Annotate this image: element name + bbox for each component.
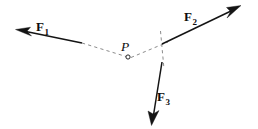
point-p-label: P xyxy=(121,40,129,54)
vector-f1-label-base: F xyxy=(36,19,44,34)
vector-f2-label-base: F xyxy=(184,9,192,24)
vector-f1-shaft xyxy=(26,32,82,44)
vector-f3-label: F3 xyxy=(157,90,170,107)
vector-f3-label-sub: 3 xyxy=(165,97,170,107)
vector-f3-label-base: F xyxy=(157,89,165,104)
vector-f1-label-sub: 1 xyxy=(44,27,49,37)
dashed-line-of-action-f1 xyxy=(82,43,126,57)
point-p-marker xyxy=(126,55,130,59)
vector-f2-label-sub: 2 xyxy=(192,17,197,27)
vector-f2 xyxy=(162,6,241,45)
vector-f1-label: F1 xyxy=(36,20,49,37)
force-diagram-figure: F1 F2 F3 P xyxy=(0,0,258,129)
vector-f2-label: F2 xyxy=(184,10,197,27)
